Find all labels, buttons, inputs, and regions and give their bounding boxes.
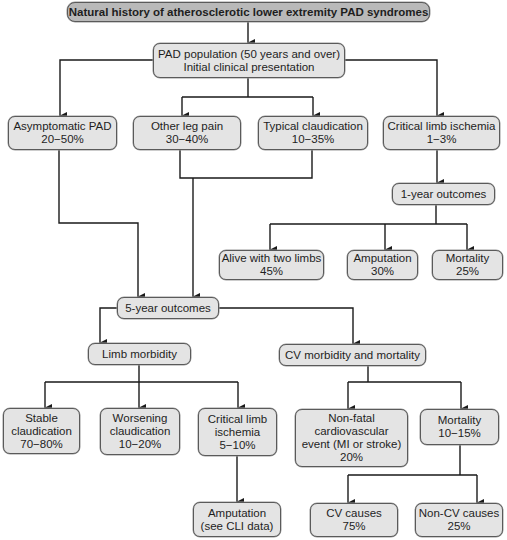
node-limb-morbidity: Limb morbidity bbox=[88, 343, 191, 365]
arrow-population-to-asymptomatic bbox=[60, 60, 153, 116]
node-label: Other leg pain bbox=[151, 120, 223, 133]
node-label: (see CLI data) bbox=[201, 520, 274, 533]
diagram-title: Natural history of atherosclerotic lower… bbox=[67, 2, 430, 22]
node-label: Stable bbox=[25, 412, 58, 425]
node-five-year-outcomes: 5-year outcomes bbox=[117, 297, 219, 319]
node-label: Mortality bbox=[438, 414, 481, 427]
node-label: Non-CV causes bbox=[419, 507, 500, 520]
node-label: Amputation bbox=[353, 252, 411, 265]
node-label: Asymptomatic PAD bbox=[13, 120, 111, 133]
node-other-leg-pain: Other leg pain 30−40% bbox=[133, 116, 241, 150]
node-cv-morbidity-mortality: CV morbidity and mortality bbox=[279, 344, 426, 366]
node-worsening-claudication: Worsening claudication 10−20% bbox=[100, 408, 180, 455]
node-label: cardiovascular bbox=[314, 425, 388, 438]
node-value: 1−3% bbox=[427, 133, 457, 146]
node-label: Amputation bbox=[208, 507, 266, 520]
node-label: Mortality bbox=[446, 252, 489, 265]
diagram-title-text: Natural history of atherosclerotic lower… bbox=[69, 6, 429, 19]
node-value: 25% bbox=[456, 265, 479, 278]
node-value: 75% bbox=[342, 520, 365, 533]
node-value: 10−35% bbox=[292, 133, 335, 146]
node-label: Alive with two limbs bbox=[222, 252, 322, 265]
node-value: 10−15% bbox=[438, 427, 481, 440]
node-label: Critical limb bbox=[208, 413, 267, 426]
node-value: 5−10% bbox=[219, 439, 255, 452]
node-label: 5-year outcomes bbox=[125, 302, 211, 315]
node-value: 45% bbox=[260, 265, 283, 278]
node-asymptomatic-pad: Asymptomatic PAD 20−50% bbox=[8, 116, 117, 150]
node-typical-claudication: Typical claudication 10−35% bbox=[258, 116, 368, 150]
node-label: Non-fatal bbox=[328, 412, 375, 425]
population-line2: Initial clinical presentation bbox=[183, 61, 314, 74]
arrow-five-year-to-cv bbox=[219, 308, 353, 344]
node-one-year-mortality: Mortality 25% bbox=[432, 250, 503, 280]
node-label: CV causes bbox=[326, 507, 382, 520]
node-label: claudication bbox=[110, 425, 171, 438]
node-label: 1-year outcomes bbox=[401, 188, 487, 201]
node-value: 10−20% bbox=[119, 438, 162, 451]
node-stable-claudication: Stable claudication 70−80% bbox=[3, 408, 80, 454]
node-nonfatal-cv-event: Non-fatal cardiovascular event (MI or st… bbox=[295, 409, 408, 467]
node-critical-limb-ischemia: Critical limb ischemia 1−3% bbox=[383, 116, 500, 150]
node-alive-two-limbs: Alive with two limbs 45% bbox=[219, 250, 324, 280]
node-label: Worsening bbox=[113, 412, 168, 425]
node-value: 25% bbox=[447, 520, 470, 533]
node-one-year-outcomes: 1-year outcomes bbox=[392, 183, 495, 205]
node-value: 20% bbox=[340, 451, 363, 464]
arrow-asymptomatic-to-five-year bbox=[59, 150, 138, 297]
node-label: Critical limb ischemia bbox=[388, 120, 496, 133]
node-label: event (MI or stroke) bbox=[302, 438, 402, 451]
node-label: Typical claudication bbox=[263, 120, 363, 133]
arrow-five-year-to-limb bbox=[100, 308, 117, 343]
node-label: ischemia bbox=[215, 426, 260, 439]
node-amputation-see-cli: Amputation (see CLI data) bbox=[193, 502, 281, 537]
node-non-cv-causes: Non-CV causes 25% bbox=[415, 503, 503, 537]
node-label: claudication bbox=[11, 425, 72, 438]
node-label: CV morbidity and mortality bbox=[285, 349, 420, 362]
arrow-population-to-cli bbox=[345, 60, 437, 116]
node-value: 20−50% bbox=[41, 133, 84, 146]
node-cv-causes: CV causes 75% bbox=[310, 503, 398, 537]
node-value: 30% bbox=[371, 265, 394, 278]
node-five-year-cli: Critical limb ischemia 5−10% bbox=[198, 408, 277, 456]
node-value: 70−80% bbox=[20, 438, 63, 451]
node-five-year-mortality: Mortality 10−15% bbox=[420, 409, 499, 445]
node-value: 30−40% bbox=[166, 133, 209, 146]
node-pad-population: PAD population (50 years and over) Initi… bbox=[153, 43, 345, 78]
node-one-year-amputation: Amputation 30% bbox=[347, 250, 418, 280]
node-label: Limb morbidity bbox=[102, 348, 177, 361]
population-line1: PAD population (50 years and over) bbox=[158, 48, 340, 61]
